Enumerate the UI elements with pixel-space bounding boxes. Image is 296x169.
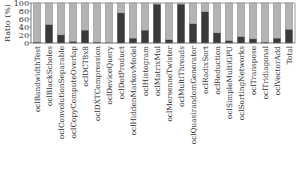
x-tick-label: oclRadixSort [201, 46, 210, 94]
bar-segment-light [225, 3, 232, 41]
plot-area [31, 3, 295, 43]
bar-segment-dark [165, 40, 172, 43]
bar-segment-dark [57, 35, 64, 43]
bar-segment-dark [249, 39, 256, 43]
bar-segment-dark [237, 37, 244, 43]
y-tick-label: 40 [19, 23, 29, 32]
bar-segment-light [57, 3, 64, 35]
bar-segment-dark [81, 30, 88, 43]
bar-segment-light [237, 3, 244, 37]
x-tick-label: oclReduction [213, 46, 222, 95]
bar-segment-light [141, 3, 148, 30]
bar-segment-light [129, 3, 136, 38]
x-tick-label: oclConvolutionSeparable [57, 46, 66, 139]
bar-segment-dark [177, 4, 184, 43]
x-tick-label: oclBlackScholes [45, 46, 54, 106]
bar-segment-light [45, 3, 52, 25]
x-tick-label: oclHistogram [141, 46, 150, 96]
bar-segment-dark [45, 25, 52, 43]
bar-segment-dark [213, 33, 220, 43]
x-tick-label: oclMersenneTwister [165, 45, 174, 121]
x-tick-label: oclMultiThreads [177, 46, 186, 107]
x-tick-label: oclDeviceQuery [105, 45, 114, 104]
y-tick-label: 80 [19, 7, 29, 16]
x-tick-label: oclBandwidthTest [33, 46, 42, 112]
bar-segment-light [249, 3, 256, 39]
bar-segment-light [177, 3, 184, 4]
x-tick-label: oclMatrixMul [153, 45, 162, 96]
x-axis: oclBandwidthTestoclBlackScholesoclConvol… [31, 43, 295, 144]
bar-segment-dark [129, 38, 136, 43]
bar-segment-light [153, 3, 160, 4]
bar-segment-light [201, 3, 208, 12]
bar-segment-light [93, 3, 100, 42]
bar-segment-dark [141, 30, 148, 43]
y-axis: 020406080100 [14, 0, 31, 48]
y-axis-label: Ratio (%) [3, 4, 12, 42]
y-tick-label: 60 [19, 15, 29, 24]
bar-segment-dark [285, 29, 292, 43]
x-tick-label: oclQuasirandomGenerator [189, 45, 198, 144]
bar-segment-light [117, 3, 124, 13]
bar-segment-dark [201, 12, 208, 43]
y-tick-label: 20 [19, 31, 29, 40]
y-tick-label: 0 [24, 39, 29, 48]
x-tick-label: oclTridiagonal [261, 45, 270, 99]
x-tick-label: oclVectorAdd [273, 46, 282, 96]
bar-segment-light [261, 3, 268, 42]
bar-segment-dark [153, 4, 160, 43]
x-tick-label: oclSortingNetworks [237, 46, 246, 121]
x-tick-label: oclSimpleMultiGPU [225, 46, 234, 119]
x-tick-label: oclDXTCompression [93, 46, 102, 121]
x-tick-label: oclDotProduct [117, 46, 126, 99]
bar-segment-light [105, 3, 112, 43]
bar-segment-light [189, 3, 196, 24]
bar-segment-dark [117, 13, 124, 43]
bar-segment-light [273, 3, 280, 38]
bar-segment-light [69, 3, 76, 41]
bar-segment-dark [189, 24, 196, 43]
y-tick-label: 100 [14, 0, 29, 8]
bar-segment-light [33, 3, 40, 42]
x-tick-label: oclHiddenMarkovModel [129, 45, 138, 135]
x-tick-label: oclCopyComputeOverlap [69, 46, 78, 139]
bar-segment-light [165, 3, 172, 40]
bar-segment-light [81, 3, 88, 30]
x-tick-label: oclTranspose [249, 46, 258, 95]
x-tick-label: oclDCT8x8 [81, 46, 90, 87]
bar-segment-light [285, 3, 292, 29]
stacked-bar-chart: 020406080100 Ratio (%) oclBandwidthTesto… [0, 0, 296, 169]
bar-segment-light [213, 3, 220, 33]
bar-segment-dark [273, 38, 280, 43]
x-tick-label: Total [285, 45, 294, 64]
